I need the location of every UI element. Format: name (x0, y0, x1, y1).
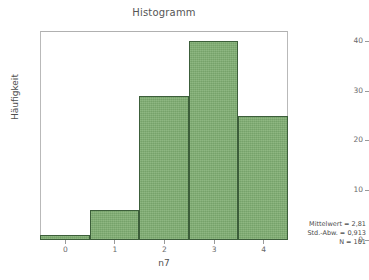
histogram-bar (238, 116, 288, 240)
histogram-bar (40, 235, 90, 240)
histogram-bar (90, 210, 140, 240)
y-tick-label: 30 (353, 86, 363, 95)
x-tick-label: 3 (202, 245, 227, 254)
chart-title: Histogramm (40, 7, 288, 18)
y-tick: 30 (329, 91, 369, 92)
stat-std-dev: Std.-Abw. = 0,913 (296, 229, 366, 238)
x-tick-label: 4 (251, 245, 276, 254)
y-tick: 40 (329, 41, 369, 42)
histogram-chart: Histogramm Häufigkeit 010203040 01234 n7… (0, 0, 369, 280)
y-tick: 20 (329, 140, 369, 141)
x-tick-mark (214, 240, 215, 244)
x-axis-label: n7 (40, 258, 288, 268)
y-axis-label: Häufigkeit (10, 47, 20, 147)
y-tick-mark (365, 140, 369, 141)
stat-n: N = 101 (296, 238, 366, 247)
x-tick-mark (65, 240, 66, 244)
y-tick-label: 40 (353, 36, 363, 45)
x-tick-label: 0 (53, 245, 78, 254)
x-tick-label: 2 (152, 245, 177, 254)
x-tick-mark (164, 240, 165, 244)
statistics-annotation: Mittelwert = 2,81 Std.-Abw. = 0,913 N = … (296, 220, 366, 247)
stat-mean: Mittelwert = 2,81 (296, 220, 366, 229)
bars-container (40, 31, 288, 240)
y-tick-label: 20 (353, 135, 363, 144)
x-tick-label: 1 (102, 245, 127, 254)
y-tick-mark (365, 41, 369, 42)
y-tick-label: 10 (353, 185, 363, 194)
y-tick-mark (365, 91, 369, 92)
x-tick-mark (114, 240, 115, 244)
histogram-bar (139, 96, 189, 240)
x-tick-mark (263, 240, 264, 244)
y-tick-mark (365, 190, 369, 191)
histogram-bar (189, 41, 239, 240)
y-tick: 10 (329, 190, 369, 191)
